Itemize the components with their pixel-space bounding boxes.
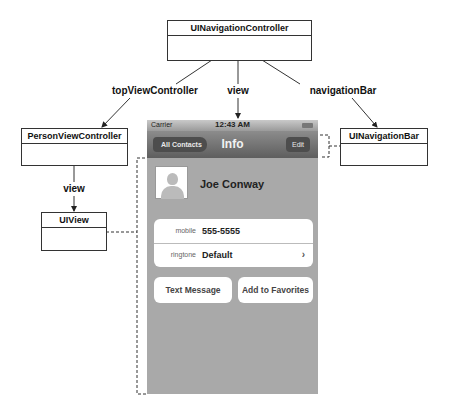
uinavigationbar-box: UINavigationBar: [340, 128, 428, 166]
battery-icon: [302, 123, 313, 128]
uinavigationcontroller-box: UINavigationController: [167, 20, 312, 61]
ringtone-value: Default: [202, 250, 233, 260]
uiview-label: UIView: [42, 213, 106, 228]
phone-screen: Carrier 12:43 AM All Contacts Info Edit …: [147, 120, 318, 394]
contact-details-group: mobile 555-5555 ringtone Default ›: [154, 219, 313, 267]
navigation-bar: All Contacts Info Edit: [147, 131, 318, 158]
personviewcontroller-label: PersonViewController: [22, 129, 127, 144]
ringtone-key: ringtone: [171, 251, 196, 258]
contact-name: Joe Conway: [200, 178, 264, 190]
status-time: 12:43 AM: [147, 120, 318, 129]
edit-button[interactable]: Edit: [286, 137, 310, 152]
avatar-head: [167, 173, 178, 185]
edge-label-view-left: view: [63, 183, 85, 194]
edge-label-topviewcontroller: topViewController: [112, 85, 198, 96]
contact-avatar-icon: [155, 166, 188, 199]
add-to-favorites-button[interactable]: Add to Favorites: [238, 277, 313, 303]
mobile-key: mobile: [175, 227, 196, 234]
chevron-right-icon: ›: [302, 249, 305, 260]
uinavigationbar-label: UINavigationBar: [341, 129, 427, 144]
edge-label-navigationbar: navigationBar: [310, 85, 377, 96]
status-bar: Carrier 12:43 AM: [147, 120, 318, 131]
mobile-row[interactable]: mobile 555-5555: [154, 219, 313, 243]
mobile-value: 555-5555: [202, 226, 240, 236]
avatar-shoulders: [161, 186, 184, 199]
uinavigationcontroller-label: UINavigationController: [168, 21, 311, 36]
edge-label-view-top: view: [227, 85, 249, 96]
uiview-box: UIView: [41, 212, 107, 251]
personviewcontroller-box: PersonViewController: [21, 128, 128, 166]
ringtone-row[interactable]: ringtone Default ›: [154, 243, 313, 267]
text-message-button[interactable]: Text Message: [154, 277, 232, 303]
